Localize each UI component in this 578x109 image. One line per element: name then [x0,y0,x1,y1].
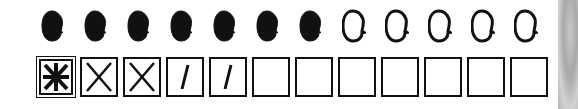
tracker-box-empty[interactable] [467,57,505,97]
page-edge-texture [558,0,578,109]
tracker-box-empty[interactable] [295,57,333,97]
slash-mark-icon [211,59,245,95]
tracker-box-slash[interactable] [166,57,204,97]
tracker-box-empty[interactable] [424,57,462,97]
tracker-box-empty[interactable] [338,57,376,97]
tracker-box-x[interactable] [80,57,118,97]
slash-mark-icon [168,59,202,95]
tracker-box-empty[interactable] [252,57,290,97]
empty-head-icon [428,9,452,43]
tracker-box-empty[interactable] [510,57,548,97]
filled-head-icon [213,9,237,43]
filled-head-icon [127,9,151,43]
filled-head-icon [84,9,108,43]
head-row [0,0,560,50]
empty-head-icon [385,9,409,43]
filled-head-icon [256,9,280,43]
x-mark-icon [125,59,159,95]
filled-head-icon [299,9,323,43]
tracker-box-x[interactable] [123,57,161,97]
checkbox-row [0,54,560,104]
empty-head-icon [514,9,538,43]
x-mark-icon [82,59,116,95]
empty-head-icon [471,9,495,43]
empty-head-icon [342,9,366,43]
asterisk-mark-icon [41,61,71,93]
tracker-box-slash[interactable] [209,57,247,97]
filled-head-icon [41,9,65,43]
tracker-box-empty[interactable] [381,57,419,97]
filled-head-icon [170,9,194,43]
tracker-box-asterisk[interactable] [39,59,73,95]
